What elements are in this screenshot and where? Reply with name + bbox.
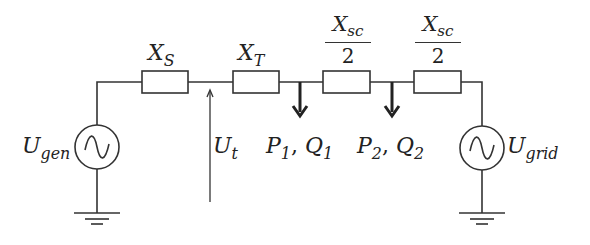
reactance-t-box — [233, 71, 279, 93]
grid-wire — [461, 82, 482, 126]
load-2-arrow-icon — [385, 82, 399, 116]
terminal-voltage-label: Ut — [213, 135, 238, 161]
grid-label-sub: grid — [526, 144, 559, 163]
generator-sine-icon — [85, 136, 109, 158]
load-1-p: P — [266, 133, 281, 158]
reactance-s-label: XS — [148, 42, 175, 68]
reactance-s-label-main: X — [148, 40, 164, 65]
terminal-voltage-label-sub: t — [232, 144, 238, 163]
reactance-sc2-box — [414, 71, 461, 93]
load-2-label: P2, Q2 — [357, 135, 424, 161]
load-2-p: P — [357, 133, 372, 158]
terminal-voltage-label-main: U — [213, 133, 232, 158]
reactance-s-label-sub: S — [164, 51, 175, 70]
reactance-t-label: XT — [238, 42, 264, 68]
load-1-q: Q — [305, 133, 323, 158]
load-1-sep: , — [291, 133, 305, 158]
reactance-sc1-label-main: X — [332, 12, 347, 36]
reactance-sc1-denominator: 2 — [325, 43, 371, 66]
grid-ground-icon — [459, 213, 505, 224]
reactance-sc2-denominator: 2 — [415, 43, 461, 66]
generator-ground-icon — [74, 213, 120, 224]
generator-wire — [97, 82, 142, 125]
grid-label: Ugrid — [507, 135, 558, 161]
reactance-sc2-label-main: X — [422, 12, 437, 36]
reactance-sc2-label: Xsc 2 — [415, 14, 461, 66]
load-1-p-sub: 1 — [281, 144, 291, 163]
load-2-sep: , — [382, 133, 396, 158]
generator-label-sub: gen — [41, 144, 71, 163]
circuit-diagram: Ugen XS XT Xsc 2 Xsc 2 Ut P1, Q1 P2, Q2 … — [0, 0, 590, 245]
load-2-q-sub: 2 — [414, 144, 424, 163]
reactance-sc1-label: Xsc 2 — [325, 14, 371, 66]
grid-label-main: U — [507, 133, 526, 158]
reactance-t-label-sub: T — [254, 51, 265, 70]
reactance-sc1-label-sub: sc — [347, 22, 363, 40]
load-1-arrow-icon — [293, 82, 307, 116]
reactance-t-label-main: X — [238, 40, 254, 65]
reactance-sc2-label-sub: sc — [437, 22, 453, 40]
load-2-q: Q — [396, 133, 414, 158]
grid-sine-icon — [470, 137, 494, 159]
load-1-q-sub: 1 — [323, 144, 333, 163]
reactance-sc2-numerator: Xsc — [415, 14, 461, 43]
load-2-p-sub: 2 — [372, 144, 382, 163]
generator-label-main: U — [22, 133, 41, 158]
load-1-label: P1, Q1 — [266, 135, 333, 161]
circuit-wiring — [0, 0, 590, 245]
reactance-s-box — [142, 71, 188, 93]
reactance-sc1-box — [323, 71, 370, 93]
generator-label: Ugen — [22, 135, 70, 161]
reactance-sc1-numerator: Xsc — [325, 14, 371, 43]
